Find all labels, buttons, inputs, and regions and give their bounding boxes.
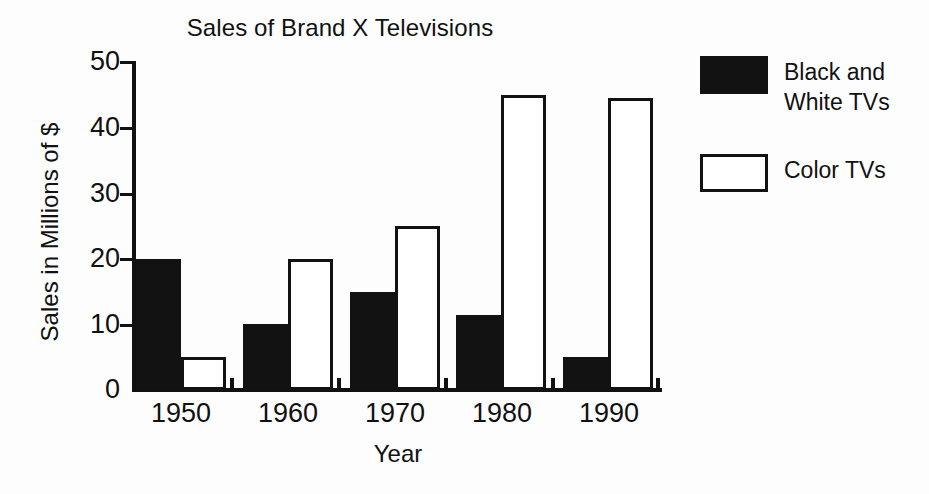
y-tick-label-10: 10 <box>8 311 120 338</box>
bar-1980-color <box>501 95 546 390</box>
x-tick-label-1990: 1990 <box>549 398 669 428</box>
bar-1960-black-and-white <box>243 324 288 390</box>
x-tick-mark-3 <box>444 378 448 390</box>
bar-1970-black-and-white <box>350 292 395 390</box>
bar-1990-black-and-white <box>563 357 608 390</box>
x-tick-label-1960: 1960 <box>228 398 348 428</box>
bar-1970-color <box>395 226 440 390</box>
y-tick-label-30: 30 <box>8 180 120 207</box>
y-tick-label-20: 20 <box>8 245 120 272</box>
bar-1980-black-and-white <box>456 315 501 390</box>
legend-item-black-and-white: Black and White TVs <box>700 56 890 117</box>
x-axis-title: Year <box>136 440 660 468</box>
x-tick-label-1970: 1970 <box>335 398 455 428</box>
bar-1950-black-and-white <box>136 259 181 390</box>
x-tick-mark-5 <box>656 378 660 390</box>
plot-area <box>136 62 660 390</box>
y-tick-label-50: 50 <box>8 48 120 75</box>
legend-label-color: Color TVs <box>784 154 886 185</box>
bar-chart: Sales of Brand X Televisions Sales in Mi… <box>0 0 929 494</box>
bar-1990-color <box>608 98 653 390</box>
x-tick-mark-2 <box>337 378 341 390</box>
x-tick-mark-1 <box>230 378 234 390</box>
x-tick-label-1950: 1950 <box>121 398 241 428</box>
legend-label-black-and-white: Black and White TVs <box>784 56 890 117</box>
legend-swatch-filled-icon <box>700 56 768 94</box>
x-tick-mark-4 <box>551 378 555 390</box>
x-tick-label-1980: 1980 <box>442 398 562 428</box>
legend-swatch-outline-icon <box>700 154 768 192</box>
y-tick-label-40: 40 <box>8 114 120 141</box>
y-axis-tick-labels: 50 40 30 20 10 0 <box>0 0 120 494</box>
legend-item-color: Color TVs <box>700 154 886 192</box>
bar-1960-color <box>288 259 333 390</box>
y-tick-label-0: 0 <box>8 376 120 403</box>
bar-1950-color <box>181 357 226 390</box>
